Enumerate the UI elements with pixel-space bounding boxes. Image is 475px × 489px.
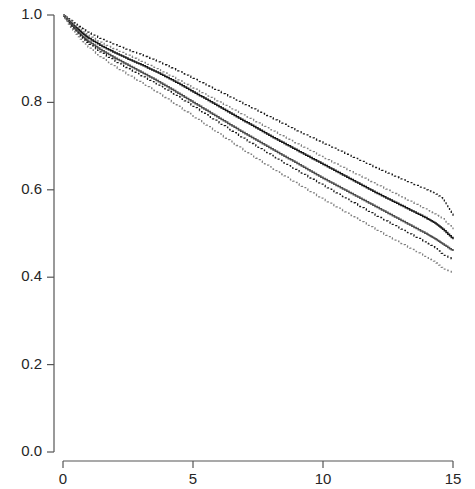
series-line-group-2-lower-ci bbox=[63, 15, 453, 273]
series-line-group-1-survival bbox=[63, 15, 453, 239]
x-axis: 051015 bbox=[59, 461, 462, 487]
series-line-group-2-upper-ci bbox=[63, 15, 453, 229]
series-line-group-1-upper-ci bbox=[63, 15, 453, 217]
series-line-group-2-survival bbox=[63, 15, 453, 251]
data-series-group bbox=[63, 15, 453, 273]
y-axis-tick-label: 0.8 bbox=[21, 92, 42, 109]
x-axis-tick-label: 0 bbox=[59, 470, 67, 487]
x-axis-tick-label: 5 bbox=[189, 470, 197, 487]
y-axis: 0.00.20.40.60.81.0 bbox=[21, 5, 54, 459]
y-axis-tick-label: 0.4 bbox=[21, 267, 42, 284]
y-axis-tick-label: 0.2 bbox=[21, 355, 42, 372]
y-axis-tick-label: 1.0 bbox=[21, 5, 42, 22]
y-axis-tick-label: 0.0 bbox=[21, 442, 42, 459]
series-line-group-1-lower-ci bbox=[63, 15, 453, 260]
y-axis-tick-label: 0.6 bbox=[21, 180, 42, 197]
x-axis-tick-label: 15 bbox=[445, 470, 462, 487]
survival-plot: 0.00.20.40.60.81.0 051015 bbox=[0, 0, 475, 489]
x-axis-tick-label: 10 bbox=[315, 470, 332, 487]
chart-canvas: 0.00.20.40.60.81.0 051015 bbox=[0, 0, 475, 489]
